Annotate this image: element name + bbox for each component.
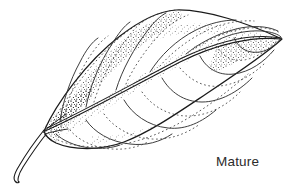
leaf-figure: Mature — [0, 0, 296, 196]
figure-caption: Mature — [216, 155, 259, 169]
petiole — [14, 130, 47, 183]
